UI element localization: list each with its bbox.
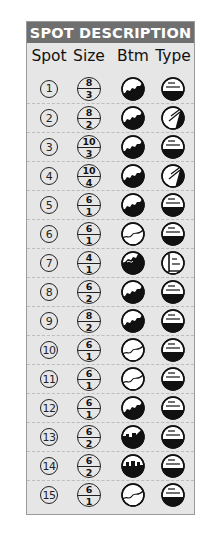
type-flat-icon [161, 483, 185, 507]
spot-number-label: 1 [46, 82, 53, 95]
bottom-rock-icon [121, 193, 145, 217]
size-fraction: 82 [77, 106, 101, 130]
size-fraction: 62 [77, 425, 101, 449]
size-bottom: 1 [86, 380, 93, 390]
size-top: 6 [86, 224, 93, 234]
bottom-sand-icon [121, 222, 145, 246]
spot-row: 1061 [27, 335, 194, 364]
spot-row: 982 [27, 306, 194, 335]
column-headers: Spot Size Btm Type [27, 43, 194, 70]
type-slope-icon [161, 164, 185, 188]
size-fraction: 62 [77, 454, 101, 478]
spot-number: 15 [40, 486, 58, 504]
spot-number-label: 3 [46, 141, 53, 154]
size-top: 4 [86, 253, 93, 263]
spot-number-label: 7 [46, 257, 53, 270]
size-top: 6 [86, 282, 93, 292]
type-flat-icon [161, 338, 185, 362]
size-bottom: 1 [86, 206, 93, 216]
type-flat-icon [161, 425, 185, 449]
size-bottom: 2 [86, 322, 93, 332]
spot-row: 862 [27, 277, 194, 306]
size-bottom: 1 [86, 264, 93, 274]
spot-row: 741 [27, 248, 194, 277]
size-fraction: 61 [77, 222, 101, 246]
bottom-rock-icon [121, 396, 145, 420]
size-top: 6 [86, 340, 93, 350]
spot-number-label: 8 [46, 286, 53, 299]
size-top: 6 [86, 369, 93, 379]
type-flat-icon [161, 77, 185, 101]
spot-number: 1 [40, 80, 58, 98]
spot-number: 6 [40, 225, 58, 243]
spot-number: 11 [40, 370, 58, 388]
size-fraction: 61 [77, 367, 101, 391]
size-top: 10 [82, 137, 95, 147]
card-title: SPOT DESCRIPTION [27, 22, 194, 43]
size-top: 8 [86, 108, 93, 118]
bottom-rock-icon [121, 309, 145, 333]
spot-number-label: 5 [46, 199, 53, 212]
type-flat-icon [161, 280, 185, 304]
bottom-rock-icon [121, 280, 145, 304]
spot-number: 12 [40, 399, 58, 417]
spot-number: 4 [40, 167, 58, 185]
bottom-sand-icon [121, 367, 145, 391]
size-bottom: 2 [86, 119, 93, 129]
size-fraction: 104 [77, 164, 101, 188]
spot-number-label: 6 [46, 228, 53, 241]
size-fraction: 62 [77, 280, 101, 304]
spot-number-label: 11 [43, 373, 56, 386]
bottom-rock-icon [121, 77, 145, 101]
spot-row: 1161 [27, 364, 194, 393]
col-spot: Spot [31, 47, 66, 65]
size-top: 8 [86, 78, 93, 88]
size-bottom: 1 [86, 351, 93, 361]
type-flat-icon [161, 396, 185, 420]
spot-row: 4104 [27, 161, 194, 190]
spot-number: 2 [40, 109, 58, 127]
spot-row: 1561 [27, 480, 194, 509]
spot-number: 7 [40, 254, 58, 272]
spot-row: 661 [27, 219, 194, 248]
size-fraction: 61 [77, 483, 101, 507]
bottom-rock-icon [121, 135, 145, 159]
size-top: 6 [86, 427, 93, 437]
spot-number: 13 [40, 428, 58, 446]
col-type: Type [155, 47, 191, 65]
type-flat-icon [161, 454, 185, 478]
spot-number: 3 [40, 138, 58, 156]
size-top: 8 [86, 311, 93, 321]
spot-number-label: 12 [43, 402, 56, 415]
size-fraction: 41 [77, 251, 101, 275]
bottom-sand-icon [121, 483, 145, 507]
type-flat-icon [161, 135, 185, 159]
size-top: 6 [86, 456, 93, 466]
type-flat-icon [161, 222, 185, 246]
spot-number: 8 [40, 283, 58, 301]
size-top: 6 [86, 195, 93, 205]
size-fraction: 61 [77, 193, 101, 217]
size-bottom: 2 [86, 293, 93, 303]
size-bottom: 3 [86, 148, 93, 158]
type-flat-icon [161, 193, 185, 217]
bottom-rock-high-icon [121, 251, 145, 275]
spot-list: 1832823103410456166174186298210611161126… [27, 74, 194, 509]
col-bottom: Btm [117, 47, 149, 65]
size-bottom: 3 [86, 89, 93, 99]
spot-row: 183 [27, 74, 194, 103]
spot-number-label: 10 [43, 344, 56, 357]
spot-number: 5 [40, 196, 58, 214]
size-fraction: 61 [77, 396, 101, 420]
spot-row: 3103 [27, 132, 194, 161]
size-bottom: 4 [86, 177, 93, 187]
spot-number-label: 13 [43, 431, 56, 444]
size-top: 6 [86, 485, 93, 495]
size-fraction: 83 [77, 77, 101, 101]
size-bottom: 2 [86, 467, 93, 477]
size-top: 10 [82, 166, 95, 176]
type-flat-icon [161, 309, 185, 333]
size-fraction: 61 [77, 338, 101, 362]
spot-number: 14 [40, 457, 58, 475]
spot-number-label: 15 [43, 489, 56, 502]
